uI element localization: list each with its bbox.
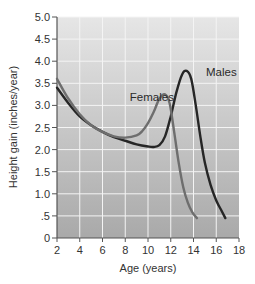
y-tick-label: 1.5 — [35, 166, 50, 178]
x-tick-label: 14 — [187, 244, 199, 256]
y-tick-label: 4.0 — [35, 55, 50, 67]
y-tick-label: 2.0 — [35, 144, 50, 156]
label-females: Females — [130, 91, 174, 103]
x-axis-title: Age (years) — [120, 262, 177, 274]
x-tick-label: 18 — [233, 244, 245, 256]
y-tick-label: .5 — [41, 210, 50, 222]
y-tick-label: 1.0 — [35, 188, 50, 200]
y-tick-label: 0 — [44, 232, 50, 244]
x-tick-label: 2 — [54, 244, 60, 256]
y-tick-label: 3.5 — [35, 77, 50, 89]
x-tick-label: 6 — [99, 244, 105, 256]
x-tick-label: 8 — [122, 244, 128, 256]
y-tick-label: 5.0 — [35, 11, 50, 23]
x-tick-label: 4 — [77, 244, 83, 256]
y-axis-title: Height gain (inches/year) — [7, 66, 19, 188]
x-tick-label: 12 — [165, 244, 177, 256]
x-tick-label: 16 — [210, 244, 222, 256]
y-tick-label: 4.5 — [35, 33, 50, 45]
y-tick-label: 2.5 — [35, 122, 50, 134]
x-tick-label: 10 — [142, 244, 154, 256]
label-males: Males — [206, 66, 237, 78]
y-tick-label: 3.0 — [35, 99, 50, 111]
height-gain-chart: 0.51.01.52.02.53.03.54.04.55.02468101214… — [0, 0, 255, 284]
